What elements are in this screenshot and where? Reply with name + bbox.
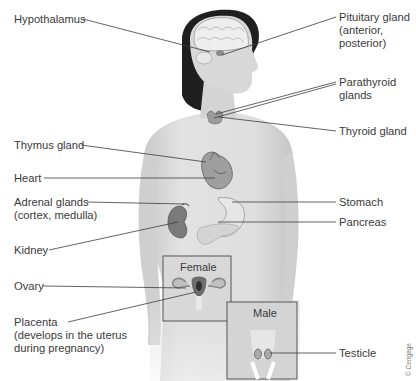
label-text: during pregnancy) (14, 342, 127, 355)
label-pituitary-gland: Pituitary gland (anterior, posterior) (339, 11, 410, 50)
label-adrenal-glands: Adrenal glands (cortex, medulla) (14, 196, 97, 222)
endocrine-diagram: Hypothalamus Thymus gland Heart Adrenal … (0, 0, 416, 381)
label-text: Parathyroid (339, 76, 396, 89)
label-text: Thyroid gland (339, 125, 407, 138)
label-text: Thymus gland (14, 139, 84, 152)
label-thymus-gland: Thymus gland (14, 139, 84, 152)
label-ovary: Ovary (14, 280, 44, 293)
label-text: Placenta (14, 316, 127, 329)
label-text: (cortex, medulla) (14, 209, 97, 222)
label-text: Pituitary gland (339, 11, 410, 24)
label-text: Pancreas (339, 216, 386, 229)
label-text: Adrenal glands (14, 196, 97, 209)
label-kidney: Kidney (14, 244, 48, 257)
label-text: (anterior, (339, 24, 410, 37)
label-heart: Heart (14, 172, 41, 185)
label-text: Kidney (14, 244, 48, 257)
label-text: Hypothalamus (14, 13, 86, 26)
label-text: (develops in the uterus (14, 329, 127, 342)
copyright-notice: © Cengage (405, 343, 412, 376)
label-stomach: Stomach (339, 196, 383, 209)
male-inset-title: Male (253, 307, 277, 319)
label-text: Heart (14, 172, 41, 185)
label-text: Ovary (14, 280, 44, 293)
label-text: glands (339, 89, 396, 102)
female-inset-title: Female (180, 261, 217, 273)
label-pancreas: Pancreas (339, 216, 386, 229)
label-text: Stomach (339, 196, 383, 209)
label-parathyroid-glands: Parathyroid glands (339, 76, 396, 102)
label-hypothalamus: Hypothalamus (14, 13, 86, 26)
label-text: posterior) (339, 37, 410, 50)
label-testicle: Testicle (339, 347, 376, 360)
label-thyroid-gland: Thyroid gland (339, 125, 407, 138)
label-text: Testicle (339, 347, 376, 360)
label-placenta: Placenta (develops in the uterus during … (14, 316, 127, 355)
